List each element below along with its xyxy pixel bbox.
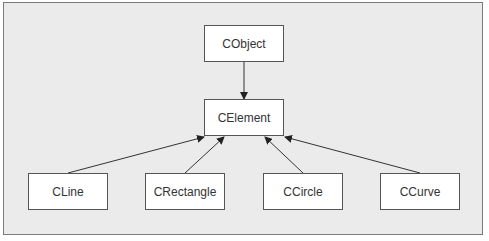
node-ccurve: CCurve: [380, 173, 460, 210]
node-label: CCurve: [400, 185, 441, 199]
edge-crectangle-celement: [185, 137, 224, 173]
node-ccircle: CCircle: [263, 173, 343, 210]
node-celement: CElement: [204, 99, 284, 136]
edge-cline-celement: [68, 137, 204, 173]
node-label: CLine: [52, 185, 83, 199]
node-cobject: CObject: [204, 25, 284, 62]
node-label: CCircle: [283, 185, 322, 199]
node-crectangle: CRectangle: [145, 173, 225, 210]
node-label: CRectangle: [154, 185, 217, 199]
node-cline: CLine: [28, 173, 108, 210]
node-label: CElement: [218, 111, 271, 125]
node-label: CObject: [222, 37, 265, 51]
edge-ccurve-celement: [285, 137, 420, 173]
edge-ccircle-celement: [265, 137, 303, 173]
